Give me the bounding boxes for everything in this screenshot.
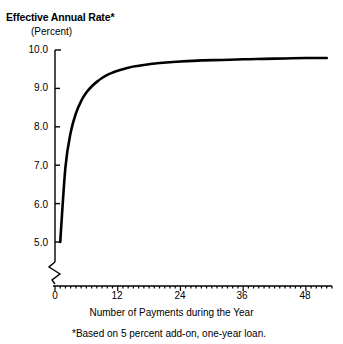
x-tick-label-24: 24 (165, 290, 195, 301)
y-tick-label-8: 8.0 (18, 121, 48, 132)
x-tick-label-48: 48 (290, 290, 320, 301)
y-axis-break-symbol (49, 262, 60, 284)
y-tick-label-7: 7.0 (18, 160, 48, 171)
x-tick-label-36: 36 (227, 290, 257, 301)
x-axis-title: Number of Payments during the Year (0, 307, 343, 318)
y-tick-label-9: 9.0 (18, 82, 48, 93)
x-tick-label-12: 12 (102, 290, 132, 301)
x-tick-label-0: 0 (40, 290, 70, 301)
y-tick-label-10: 10.0 (18, 44, 48, 55)
y-tick-label-6: 6.0 (18, 199, 48, 210)
data-line-effective-annual-rate (60, 58, 327, 242)
chart-footnote: *Based on 5 percent add-on, one-year loa… (72, 328, 266, 339)
chart-figure: Effective Annual Rate* (Percent) 10.0 9.… (0, 0, 343, 344)
y-tick-label-5: 5.0 (18, 237, 48, 248)
